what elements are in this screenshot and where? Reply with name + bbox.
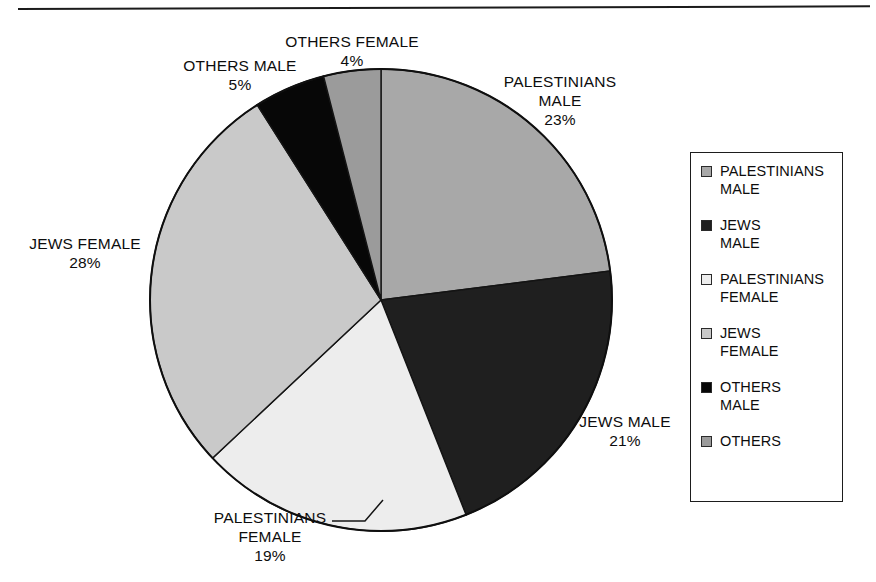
legend-swatch-others-male — [701, 382, 712, 393]
figure-canvas: OTHERS FEMALE 4% OTHERS MALE 5% PALESTIN… — [0, 0, 876, 582]
legend-swatch-jews-female — [701, 328, 712, 339]
slice-label-others-male: OTHERS MALE 5% — [150, 56, 330, 94]
legend-swatch-palestinians-female — [701, 274, 712, 285]
legend-list: PALESTINIANS MALEJEWS MALEPALESTINIANS F… — [701, 163, 838, 451]
legend-box: PALESTINIANS MALEJEWS MALEPALESTINIANS F… — [690, 152, 843, 502]
legend-swatch-palestinians-male — [701, 166, 712, 177]
pie-slice-group — [150, 69, 612, 531]
legend-item-label: JEWS FEMALE — [720, 325, 779, 360]
legend-item[interactable]: JEWS FEMALE — [701, 325, 838, 360]
legend-item[interactable]: JEWS MALE — [701, 217, 838, 252]
legend-item[interactable]: OTHERS MALE — [701, 379, 838, 414]
legend-item-label: JEWS MALE — [720, 217, 761, 252]
legend-item-label: PALESTINIANS FEMALE — [720, 271, 824, 306]
legend-item[interactable]: PALESTINIANS FEMALE — [701, 271, 838, 306]
slice-label-palestinians-female: PALESTINIANS FEMALE 19% — [165, 508, 375, 565]
legend-item-label: OTHERS MALE — [720, 379, 781, 414]
legend-item-label: PALESTINIANS MALE — [720, 163, 824, 198]
legend-item-label: OTHERS — [720, 433, 781, 451]
slice-label-jews-female: JEWS FEMALE 28% — [10, 234, 160, 272]
slice-label-jews-male: JEWS MALE 21% — [560, 412, 690, 450]
slice-label-palestinians-male: PALESTINIANS MALE 23% — [470, 72, 650, 129]
legend-swatch-jews-male — [701, 220, 712, 231]
legend-item[interactable]: PALESTINIANS MALE — [701, 163, 838, 198]
legend-item[interactable]: OTHERS — [701, 433, 838, 451]
legend-swatch-others — [701, 436, 712, 447]
